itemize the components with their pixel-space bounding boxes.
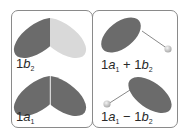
sphere-icon xyxy=(103,100,110,107)
orbital-1a1-plus-1b2 xyxy=(95,11,172,60)
label-1a1-plus-1b2: 1a1 + 1b2 xyxy=(101,58,153,73)
bond-line xyxy=(142,31,168,49)
sphere-icon xyxy=(164,45,171,52)
label-1b2: 1b2 xyxy=(16,57,34,72)
label-1a1-minus-1b2: 1a1 − 1b2 xyxy=(101,110,153,125)
label-1a1: 1a1 xyxy=(16,110,34,125)
lobe-dark xyxy=(95,11,147,60)
bond-line xyxy=(108,90,130,104)
